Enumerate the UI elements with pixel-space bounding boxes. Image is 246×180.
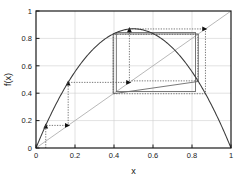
x-axis-tick-label: 0.8 [187,151,197,160]
chart-figure: 00.20.40.60.8100.20.40.60.81xf(x) [0,0,246,180]
y-axis-tick-label: 0.4 [22,89,32,98]
x-axis-tick-label: 0.4 [109,151,119,160]
cobweb-arrow-marker [65,123,70,128]
x-axis-label: x [131,166,136,176]
cobweb-arrow-marker [202,27,207,32]
y-axis-tick-label: 0.6 [22,62,32,71]
y-axis-label: f(x) [3,73,13,86]
x-axis-tick-label: 0.2 [70,151,80,160]
x-axis-tick-label: 0 [34,151,38,160]
logistic-map-curve [36,29,231,148]
cobweb-trajectory [46,29,206,148]
y-axis-tick-label: 0 [28,144,32,153]
y-axis-tick-label: 1 [28,7,32,16]
cobweb-arrow-marker [126,80,131,85]
cobweb-plot: 00.20.40.60.8100.20.40.60.81xf(x) [0,0,246,180]
x-axis-tick-label: 0.6 [148,151,158,160]
y-axis-tick-label: 0.8 [22,34,32,43]
x-axis-tick-label: 1 [229,151,233,160]
y-axis-tick-label: 0.2 [22,116,32,125]
